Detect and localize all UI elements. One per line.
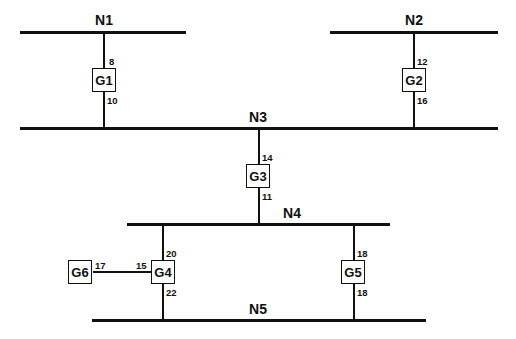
- port-g1-bottom: 10: [107, 96, 118, 106]
- bus-n5: [92, 319, 426, 322]
- link-n3-g3: [258, 128, 260, 165]
- port-g4-top: 20: [166, 249, 177, 259]
- node-g6: G6: [68, 260, 92, 284]
- bus-n2-label: N2: [405, 13, 423, 27]
- port-g5-top: 18: [357, 249, 368, 259]
- port-g5-bottom: 18: [357, 288, 368, 298]
- link-n4-g5: [353, 224, 355, 261]
- link-n2-g2: [413, 32, 415, 69]
- port-g1-top: 8: [109, 57, 114, 67]
- node-g3: G3: [246, 164, 270, 188]
- link-g3-n4: [258, 188, 260, 224]
- network-diagram: N1 N2 N3 N4 N5 G1 8 10 G2 12 16 G3 14 11…: [0, 0, 516, 339]
- port-g2-top: 12: [417, 57, 428, 67]
- link-n1-g1: [103, 32, 105, 69]
- node-g5: G5: [341, 260, 365, 284]
- port-g6-right: 17: [95, 261, 106, 271]
- bus-n4-label: N4: [283, 206, 301, 220]
- link-g5-n5: [353, 284, 355, 320]
- port-g3-bottom: 11: [262, 192, 272, 202]
- node-g2: G2: [402, 68, 426, 92]
- node-g1: G1: [92, 68, 116, 92]
- link-g1-n3: [103, 92, 105, 128]
- node-g4: G4: [151, 260, 175, 284]
- link-n4-g4: [162, 224, 164, 261]
- bus-n1-label: N1: [95, 13, 113, 27]
- bus-n3-label: N3: [249, 110, 267, 124]
- port-g2-bottom: 16: [417, 96, 428, 106]
- port-g4-bottom: 22: [166, 288, 177, 298]
- link-g4-n5: [162, 284, 164, 320]
- link-g2-n3: [413, 92, 415, 128]
- port-g4-left: 15: [136, 261, 147, 271]
- port-g3-top: 14: [262, 153, 273, 163]
- bus-n5-label: N5: [249, 302, 267, 316]
- link-g6-g4: [93, 271, 151, 273]
